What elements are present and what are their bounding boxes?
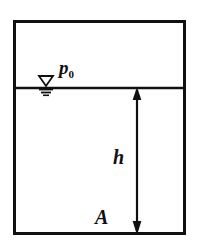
diagram-canvas	[0, 0, 197, 247]
diagram-background	[0, 0, 197, 247]
fluid-pressure-diagram: p0 h A	[0, 0, 197, 247]
